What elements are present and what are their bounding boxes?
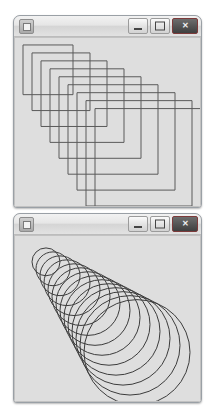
- window-squares[interactable]: ✕: [13, 15, 202, 208]
- minimize-button[interactable]: [128, 18, 148, 34]
- circle-9: [64, 280, 140, 356]
- titlebar-squares[interactable]: ✕: [14, 16, 201, 37]
- circle-4: [44, 260, 90, 306]
- square-4: [50, 69, 124, 143]
- circles-drawing: [14, 235, 201, 402]
- circle-12: [76, 292, 170, 385]
- window-circles[interactable]: ✕: [13, 213, 202, 403]
- app-window-icon: [19, 217, 34, 232]
- square-7: [77, 93, 175, 190]
- close-icon: ✕: [182, 22, 189, 30]
- app-window-icon: [19, 19, 34, 34]
- circle-14: [84, 300, 190, 402]
- close-button[interactable]: ✕: [172, 18, 198, 34]
- maximize-button[interactable]: [150, 216, 170, 232]
- squares-drawing: [14, 37, 201, 207]
- square-6: [68, 85, 158, 174]
- restore-icon: [155, 22, 165, 31]
- window-controls-squares: ✕: [128, 18, 198, 34]
- window-controls-circles: ✕: [128, 216, 198, 232]
- titlebar-circles[interactable]: ✕: [14, 214, 201, 235]
- circle-7: [56, 272, 120, 336]
- maximize-icon: [155, 220, 165, 229]
- square-3: [41, 61, 107, 127]
- maximize-button[interactable]: [150, 18, 170, 34]
- square-5: [59, 77, 141, 159]
- canvas-squares: [14, 37, 201, 207]
- close-icon: ✕: [182, 220, 189, 228]
- minimize-icon: [134, 28, 142, 30]
- minimize-icon: [134, 226, 142, 228]
- canvas-circles: [14, 235, 201, 402]
- minimize-button[interactable]: [128, 216, 148, 232]
- close-button[interactable]: ✕: [172, 216, 198, 232]
